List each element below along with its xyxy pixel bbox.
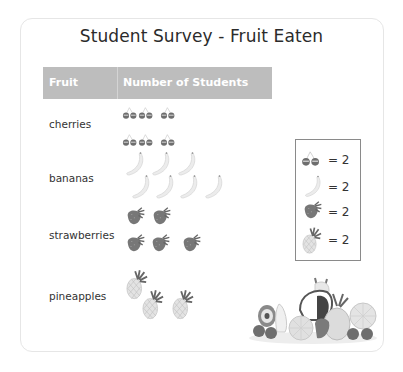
strawberry-icon (181, 234, 203, 254)
banana-icon (303, 175, 323, 198)
row-label-cherries: cherries (49, 118, 91, 130)
cherry-icon (160, 133, 176, 147)
cherry-icon (301, 150, 321, 167)
legend-item-pineapple: = 2 (296, 228, 362, 254)
legend-item-strawberry: = 2 (296, 200, 362, 226)
legend-key: = 2 = 2 = 2 = 2 (295, 139, 361, 261)
cherry-icon (122, 133, 138, 147)
row-label-strawberries: strawberries (49, 229, 114, 241)
banana-icon (178, 174, 200, 200)
cherry-icon (138, 106, 154, 120)
legend-item-cherry: = 2 (296, 148, 362, 174)
strawberry-icon (125, 207, 147, 227)
banana-icon (203, 174, 225, 200)
pineapple-icon (172, 288, 194, 320)
header-fruit: Fruit (49, 76, 78, 89)
strawberry-icon (125, 234, 147, 254)
strawberry-icon (302, 201, 324, 221)
table-header: Fruit Number of Students (43, 67, 272, 99)
legend-value: = 2 (328, 180, 350, 194)
strawberry-icon (151, 207, 173, 227)
cherry-icon (122, 106, 138, 120)
legend-value: = 2 (328, 205, 350, 219)
header-number-of-students: Number of Students (123, 76, 248, 89)
fruit-pile-illustration (245, 276, 380, 346)
chart-title: Student Survey - Fruit Eaten (0, 26, 403, 46)
pineapple-icon (302, 226, 322, 254)
banana-icon (154, 174, 176, 200)
banana-icon (130, 174, 152, 200)
strawberry-icon (150, 234, 172, 254)
legend-item-banana: = 2 (296, 175, 362, 201)
legend-value: = 2 (328, 153, 350, 167)
pineapple-icon (142, 288, 164, 320)
header-divider (117, 67, 118, 99)
row-label-pineapples: pineapples (49, 290, 106, 302)
cherry-icon (138, 133, 154, 147)
cherry-icon (160, 106, 176, 120)
legend-value: = 2 (328, 233, 350, 247)
row-label-bananas: bananas (49, 172, 94, 184)
